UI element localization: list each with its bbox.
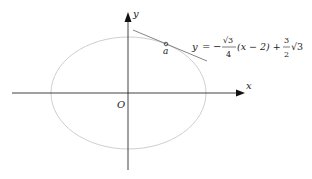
tangent-equation: y = − √3 4 (x − 2) + 3 2 √3: [191, 36, 303, 59]
y-axis-label: y: [132, 8, 139, 19]
y-axis: y: [125, 8, 140, 170]
x-axis-arrow-icon: [236, 90, 245, 97]
origin-label: O: [117, 99, 125, 110]
eq-frac2-den: 2: [284, 50, 289, 59]
eq-frac1-den: 4: [226, 50, 231, 59]
eq-equals: =: [202, 41, 210, 52]
x-axis: x: [12, 80, 252, 97]
point-a-label: a: [163, 46, 168, 56]
eq-middle: (x − 2) +: [237, 41, 281, 52]
eq-lhs: y: [191, 41, 198, 52]
ellipse-diagram: x y O a y = − √3 4 (x − 2) + 3 2 √3: [0, 0, 312, 179]
eq-tail: √3: [291, 41, 303, 52]
eq-frac2-num: 3: [284, 36, 289, 45]
x-axis-label: x: [246, 80, 252, 91]
eq-minus: −: [213, 41, 221, 52]
y-axis-arrow-icon: [125, 12, 132, 22]
eq-frac1-num: √3: [223, 36, 233, 45]
